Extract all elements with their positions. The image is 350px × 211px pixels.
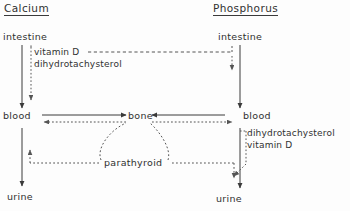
calcium-phosphorus-metabolism-diagram: Calcium Phosphorus intestine blood urine… <box>0 0 350 211</box>
parathyroid-bone-influences <box>100 123 169 160</box>
node-calcium-blood: blood <box>3 110 31 121</box>
node-calcium-urine: urine <box>7 191 33 202</box>
parathyroid-calcium-influence <box>30 150 99 163</box>
diagram-connections <box>0 0 350 211</box>
column-title-phosphorus: Phosphorus <box>213 3 278 16</box>
column-title-calcium: Calcium <box>4 3 49 16</box>
node-parathyroid: parathyroid <box>104 157 162 168</box>
node-phosphorus-intestine: intestine <box>218 31 262 42</box>
node-phosphorus-urine: urine <box>216 193 242 204</box>
node-calcium-intestine: intestine <box>3 31 47 42</box>
parathyroid-phosphorus-influence <box>172 163 234 178</box>
label-right-vitamin-d: vitamin D <box>247 140 292 151</box>
label-left-vitamin-d: vitamin D <box>34 47 79 58</box>
label-right-dihydrotachysterol: dihydrotachysterol <box>247 128 335 139</box>
label-left-dihydrotachysterol: dihydrotachysterol <box>34 59 122 70</box>
node-bone: bone <box>128 110 153 121</box>
node-phosphorus-blood: blood <box>243 110 271 121</box>
